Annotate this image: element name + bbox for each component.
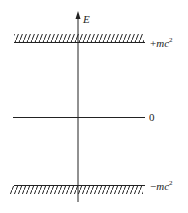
lower-level-label: −mc2: [150, 179, 173, 192]
energy-level-diagram: E +mc2 0 −mc2: [0, 0, 188, 213]
lower-hatch: [10, 186, 143, 194]
axis-label-e: E: [82, 13, 90, 25]
upper-level-label: +mc2: [150, 36, 173, 49]
upper-level: [14, 34, 145, 43]
lower-level: [10, 186, 145, 195]
arrow-head-icon: [76, 11, 81, 19]
upper-hatch: [14, 34, 144, 42]
zero-level-label: 0: [149, 111, 155, 123]
